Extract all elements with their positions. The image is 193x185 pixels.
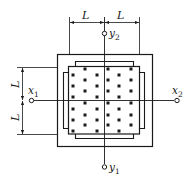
point-y1-label: y1 <box>108 161 120 176</box>
bolt-dot <box>72 108 75 111</box>
bolt-dot <box>107 124 110 127</box>
bolt-dot <box>118 130 121 133</box>
bolt-dot <box>96 130 99 133</box>
bolt-dot <box>118 108 121 111</box>
bolt-dot <box>118 119 121 122</box>
bolt-dot <box>96 96 99 99</box>
point-x2-label: x2 <box>172 84 183 99</box>
stiffened-plate-diagram: L L L L y2 y1 x1 x2 <box>0 0 193 185</box>
top-dimension-left-label: L <box>81 9 89 22</box>
bolt-dot <box>107 68 110 71</box>
bolt-dot <box>130 79 133 82</box>
top-dimension-right-label: L <box>116 9 124 22</box>
bolt-dot <box>84 124 87 127</box>
bolt-dot <box>118 85 121 88</box>
point-y2-marker <box>102 31 106 35</box>
bolt-dot <box>72 85 75 88</box>
bolt-dot <box>72 96 75 99</box>
bolt-dot <box>130 90 133 93</box>
bolt-dot <box>107 90 110 93</box>
bolt-dot <box>84 68 87 71</box>
bolt-dot <box>72 130 75 133</box>
bolt-dot <box>130 102 133 105</box>
bolt-dot <box>96 108 99 111</box>
bolt-dot <box>96 74 99 77</box>
point-x2-marker <box>175 98 179 102</box>
bolt-dot <box>118 96 121 99</box>
bolt-dot <box>96 119 99 122</box>
point-y1-marker <box>102 165 106 169</box>
point-y2-label: y2 <box>108 27 120 42</box>
left-dimension-upper-label: L <box>9 81 22 89</box>
bolt-dot <box>96 85 99 88</box>
point-x1-label: x1 <box>28 84 39 99</box>
bolt-dot <box>107 114 110 117</box>
bolt-dot <box>107 102 110 105</box>
point-x1-marker <box>29 98 33 102</box>
bolt-dot <box>130 114 133 117</box>
bolt-dot <box>84 114 87 117</box>
bolt-dot <box>72 74 75 77</box>
bolt-dot <box>130 68 133 71</box>
bolt-dot <box>130 124 133 127</box>
bolt-dot <box>107 79 110 82</box>
bolt-dot <box>84 90 87 93</box>
bolt-dot <box>84 102 87 105</box>
bolt-dot <box>84 79 87 82</box>
bolt-dot <box>72 119 75 122</box>
left-dimension-lower-label: L <box>9 114 22 122</box>
bolt-dot <box>118 74 121 77</box>
